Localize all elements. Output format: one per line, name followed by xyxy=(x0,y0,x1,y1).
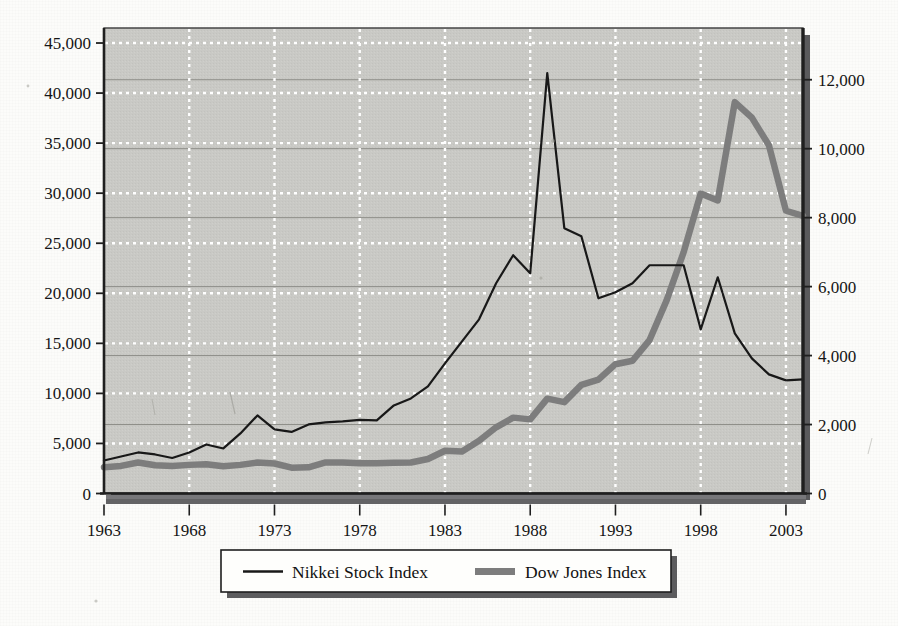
x-axis-tick-label: 1968 xyxy=(172,521,206,540)
chart-figure: 05,00010,00015,00020,00025,00030,00035,0… xyxy=(0,0,898,626)
plot-background xyxy=(104,28,803,493)
left-axis-tick-label: 0 xyxy=(83,485,92,504)
x-axis-tick-label: 1978 xyxy=(343,521,377,540)
x-axis-tick-label: 1988 xyxy=(513,521,547,540)
right-axis-tick-label: 6,000 xyxy=(818,278,856,297)
right-axis-tick-label: 8,000 xyxy=(818,209,856,228)
x-axis-ticks: 196319681973197819831988199319982003 xyxy=(87,505,803,540)
left-axis-tick-label: 25,000 xyxy=(44,234,91,253)
x-axis-tick-label: 1993 xyxy=(598,521,632,540)
right-axis-tick-label: 12,000 xyxy=(818,71,865,90)
x-axis-tick-label: 1973 xyxy=(257,521,291,540)
left-axis-ticks: 05,00010,00015,00020,00025,00030,00035,0… xyxy=(44,34,104,503)
left-axis-tick-label: 5,000 xyxy=(53,434,91,453)
x-axis-tick-label: 1963 xyxy=(87,521,121,540)
left-axis-tick-label: 30,000 xyxy=(44,184,91,203)
left-axis-tick-label: 10,000 xyxy=(44,384,91,403)
left-axis-tick-label: 40,000 xyxy=(44,84,91,103)
right-axis-ticks: 02,0004,0006,0008,00010,00012,000 xyxy=(803,71,865,504)
left-axis-tick-label: 15,000 xyxy=(44,334,91,353)
right-axis-tick-label: 10,000 xyxy=(818,140,865,159)
x-axis-tick-label: 1983 xyxy=(428,521,462,540)
left-axis-tick-label: 20,000 xyxy=(44,284,91,303)
left-axis-tick-label: 35,000 xyxy=(44,134,91,153)
left-axis-tick-label: 45,000 xyxy=(44,34,91,53)
legend-label-nikkei: Nikkei Stock Index xyxy=(292,562,428,582)
chart-legend: Nikkei Stock Index Dow Jones Index xyxy=(221,550,677,598)
right-axis-tick-label: 0 xyxy=(818,485,827,504)
line-chart: 05,00010,00015,00020,00025,00030,00035,0… xyxy=(0,0,898,626)
right-axis-tick-label: 4,000 xyxy=(818,347,856,366)
right-axis-tick-label: 2,000 xyxy=(818,416,856,435)
x-axis-tick-label: 1998 xyxy=(684,521,718,540)
legend-label-dow: Dow Jones Index xyxy=(525,562,647,582)
x-axis-tick-label: 2003 xyxy=(769,521,803,540)
